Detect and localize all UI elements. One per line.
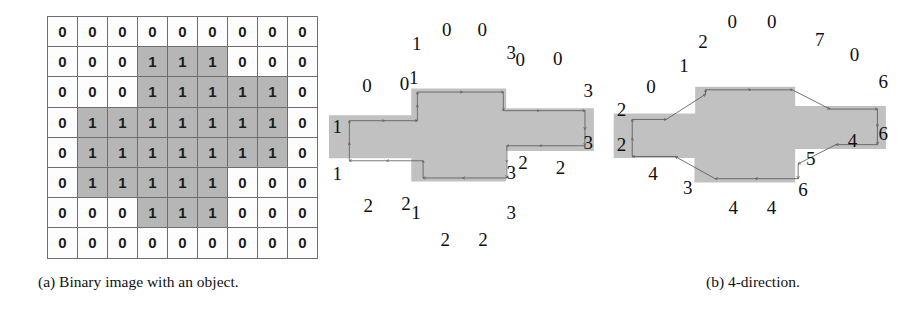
chain-code-label: 0 xyxy=(400,73,410,92)
grid-cell-7-3: 0 xyxy=(138,228,168,258)
grid-cell-1-3: 1 xyxy=(138,47,168,77)
grid-cell-1-5: 1 xyxy=(198,47,228,77)
grid-cell-4-1: 1 xyxy=(78,137,108,167)
grid-cell-0-1: 0 xyxy=(78,17,108,47)
grid-cell-1-6: 0 xyxy=(228,47,258,77)
grid-cell-6-5: 1 xyxy=(198,198,228,228)
chain-code-label: 2 xyxy=(617,135,627,154)
grid-cell-1-1: 0 xyxy=(78,47,108,77)
chain-code-label: 1 xyxy=(409,67,419,86)
grid-cell-0-3: 0 xyxy=(138,17,168,47)
grid-cell-6-6: 0 xyxy=(228,198,258,228)
grid-cell-5-8: 0 xyxy=(288,167,318,197)
grid-cell-2-1: 0 xyxy=(78,77,108,107)
grid-cell-1-2: 0 xyxy=(108,47,138,77)
grid-cell-3-4: 1 xyxy=(168,107,198,137)
grid-cell-7-6: 0 xyxy=(228,228,258,258)
chain-code-label: 6 xyxy=(879,72,889,91)
chain-code-label: 4 xyxy=(729,198,739,217)
chain-code-label: 2 xyxy=(556,158,566,177)
grid-cell-7-4: 0 xyxy=(168,228,198,258)
panel-8-direction: 012007066456443422 (c) 8-direction. xyxy=(610,0,919,332)
grid-cell-5-1: 1 xyxy=(78,167,108,197)
chain-code-label: 5 xyxy=(806,148,816,167)
panel-binary-image: 0000000000001110000001111100111111100111… xyxy=(0,0,330,332)
grid-cell-2-0: 0 xyxy=(48,77,78,107)
chain-code-label: 4 xyxy=(767,198,777,217)
grid-cell-6-2: 0 xyxy=(108,198,138,228)
chain-code-label: 6 xyxy=(879,124,889,143)
cross-shape-8dir xyxy=(610,0,910,270)
chain-code-label: 0 xyxy=(850,45,860,64)
binary-grid-table: 0000000000001110000001111100111111100111… xyxy=(47,16,318,259)
chain-code-label: 1 xyxy=(411,202,421,221)
grid-cell-2-7: 1 xyxy=(258,77,288,107)
grid-cell-7-2: 0 xyxy=(108,228,138,258)
grid-cell-5-2: 1 xyxy=(108,167,138,197)
chain-code-label: 0 xyxy=(442,19,452,38)
chain-code-label: 3 xyxy=(683,178,693,197)
grid-row: 000000000 xyxy=(48,17,318,47)
grid-cell-2-8: 0 xyxy=(288,77,318,107)
grid-cell-7-7: 0 xyxy=(258,228,288,258)
grid-cell-6-1: 0 xyxy=(78,198,108,228)
grid-cell-1-4: 1 xyxy=(168,47,198,77)
grid-cell-6-0: 0 xyxy=(48,198,78,228)
grid-cell-1-0: 0 xyxy=(48,47,78,77)
chain-code-label: 0 xyxy=(515,50,525,69)
chain-code-label: 1 xyxy=(679,55,689,74)
grid-cell-6-3: 1 xyxy=(138,198,168,228)
chain-code-label: 1 xyxy=(412,34,422,53)
chain-code-label: 2 xyxy=(441,229,451,248)
chain-code-label: 2 xyxy=(617,99,627,118)
chain-code-label: 2 xyxy=(478,229,488,248)
grid-cell-3-7: 1 xyxy=(258,107,288,137)
chain-code-label: 7 xyxy=(815,29,825,48)
grid-cell-3-1: 1 xyxy=(78,107,108,137)
object-region xyxy=(329,88,594,181)
grid-cell-6-8: 0 xyxy=(288,198,318,228)
grid-cell-5-0: 0 xyxy=(48,167,78,197)
panel-4-direction: 0011003003322332212211 (b) 4-direction. xyxy=(320,0,610,332)
chain-code-label: 3 xyxy=(583,133,593,152)
grid-cell-3-6: 1 xyxy=(228,107,258,137)
grid-cell-5-3: 1 xyxy=(138,167,168,197)
grid-cell-0-6: 0 xyxy=(228,17,258,47)
grid-cell-4-0: 0 xyxy=(48,137,78,167)
chain-code-label: 1 xyxy=(332,163,342,182)
grid-cell-0-0: 0 xyxy=(48,17,78,47)
grid-row: 000111110 xyxy=(48,77,318,107)
chain-code-label: 2 xyxy=(518,153,528,172)
grid-cell-4-5: 1 xyxy=(198,137,228,167)
grid-cell-6-7: 0 xyxy=(258,198,288,228)
grid-row: 011111110 xyxy=(48,107,318,137)
grid-cell-5-6: 0 xyxy=(228,167,258,197)
chain-code-label: 0 xyxy=(727,11,737,30)
grid-cell-1-8: 0 xyxy=(288,47,318,77)
chain-code-label: 4 xyxy=(648,163,658,182)
grid-cell-4-7: 1 xyxy=(258,137,288,167)
grid-cell-0-2: 0 xyxy=(108,17,138,47)
grid-cell-3-8: 0 xyxy=(288,107,318,137)
grid-row: 000111000 xyxy=(48,47,318,77)
binary-grid: 0000000000001110000001111100111111100111… xyxy=(47,16,318,259)
chain-code-label: 4 xyxy=(848,130,858,149)
chain-code-label: 2 xyxy=(401,194,411,213)
chain-code-label: 3 xyxy=(506,202,516,221)
grid-cell-7-1: 0 xyxy=(78,228,108,258)
chain-code-label: 3 xyxy=(583,81,593,100)
chain-code-label: 0 xyxy=(362,75,372,94)
grid-cell-3-5: 1 xyxy=(198,107,228,137)
grid-cell-2-3: 1 xyxy=(138,77,168,107)
grid-cell-2-6: 1 xyxy=(228,77,258,107)
grid-row: 011111000 xyxy=(48,167,318,197)
grid-cell-0-4: 0 xyxy=(168,17,198,47)
grid-cell-2-4: 1 xyxy=(168,77,198,107)
grid-cell-3-2: 1 xyxy=(108,107,138,137)
grid-cell-4-8: 0 xyxy=(288,137,318,167)
caption-a: (a) Binary image with an object. xyxy=(38,272,286,292)
grid-cell-4-2: 1 xyxy=(108,137,138,167)
grid-cell-5-5: 1 xyxy=(198,167,228,197)
grid-cell-2-2: 0 xyxy=(108,77,138,107)
chain-code-label: 0 xyxy=(646,77,656,96)
